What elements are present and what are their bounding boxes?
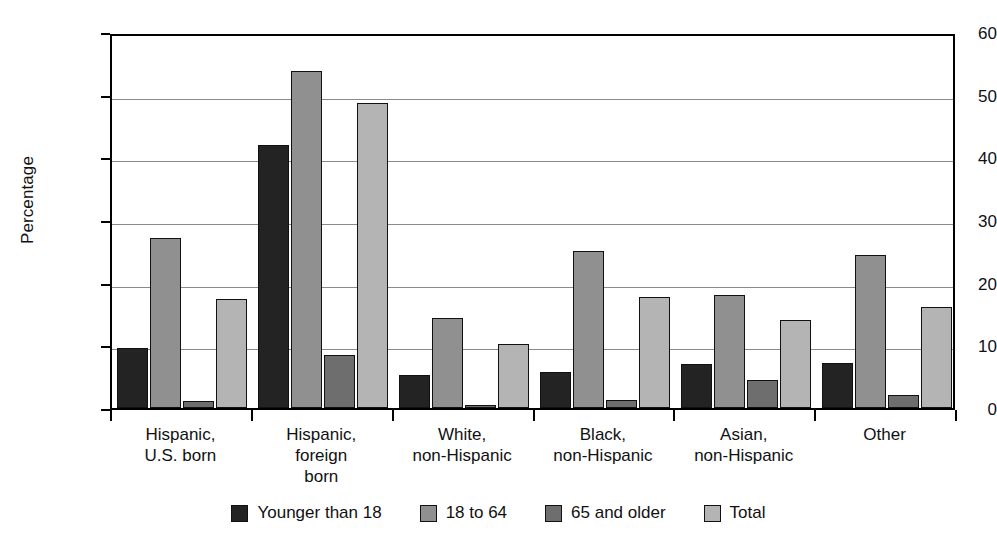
- legend-label: 65 and older: [571, 503, 666, 523]
- legend-swatch-icon: [420, 505, 437, 522]
- x-category-label: Hispanic, U.S. born: [110, 424, 251, 466]
- bar: [150, 238, 181, 408]
- x-tick-mark: [392, 410, 394, 421]
- bar: [714, 295, 745, 408]
- legend-item[interactable]: 18 to 64: [420, 503, 507, 523]
- bar: [573, 251, 604, 408]
- x-category-label: Hispanic, foreign born: [251, 424, 392, 487]
- x-tick-mark: [814, 410, 816, 421]
- bar: [822, 363, 853, 408]
- y-tick-label: 60: [951, 24, 997, 44]
- bar: [606, 400, 637, 408]
- bar: [117, 348, 148, 408]
- bar: [357, 103, 388, 408]
- bar: [498, 344, 529, 408]
- bar: [747, 380, 778, 408]
- y-tick-mark: [101, 96, 110, 98]
- x-tick-mark: [673, 410, 675, 421]
- y-tick-label: 50: [951, 87, 997, 107]
- legend-item[interactable]: Younger than 18: [231, 503, 381, 523]
- y-tick-mark: [101, 409, 110, 411]
- y-tick-label: 20: [951, 275, 997, 295]
- y-tick-mark: [101, 158, 110, 160]
- y-tick-label: 0: [951, 400, 997, 420]
- y-axis-title: Percentage: [18, 110, 38, 290]
- legend-swatch-icon: [545, 505, 562, 522]
- legend-label: 18 to 64: [446, 503, 507, 523]
- bar: [921, 307, 952, 408]
- legend-label: Younger than 18: [257, 503, 381, 523]
- bar: [258, 145, 289, 408]
- y-tick-label: 30: [951, 212, 997, 232]
- chart-legend: Younger than 1818 to 6465 and olderTotal: [0, 503, 997, 523]
- bar-chart: Percentage 0102030405060 Hispanic, U.S. …: [0, 0, 997, 558]
- legend-label: Total: [730, 503, 766, 523]
- gridline: [112, 161, 953, 162]
- x-category-label: Other: [814, 424, 955, 445]
- x-category-label: Black, non-Hispanic: [533, 424, 674, 466]
- y-tick-mark: [101, 284, 110, 286]
- y-tick-mark: [101, 33, 110, 35]
- legend-swatch-icon: [704, 505, 721, 522]
- x-tick-mark: [251, 410, 253, 421]
- bar: [432, 318, 463, 408]
- x-category-label: Asian, non-Hispanic: [673, 424, 814, 466]
- plot-area: [110, 34, 955, 410]
- y-tick-mark: [101, 221, 110, 223]
- gridline: [112, 224, 953, 225]
- bar: [681, 364, 712, 408]
- bar: [639, 297, 670, 408]
- legend-swatch-icon: [231, 505, 248, 522]
- gridline: [112, 99, 953, 100]
- y-tick-label: 40: [951, 149, 997, 169]
- x-tick-mark: [110, 410, 112, 421]
- bar: [465, 405, 496, 408]
- bar: [183, 401, 214, 408]
- bar: [888, 395, 919, 408]
- bar: [324, 355, 355, 408]
- legend-item[interactable]: 65 and older: [545, 503, 666, 523]
- y-tick-mark: [101, 346, 110, 348]
- bar: [216, 299, 247, 408]
- legend-item[interactable]: Total: [704, 503, 766, 523]
- bar: [291, 71, 322, 408]
- bar: [399, 375, 430, 408]
- x-tick-mark: [955, 410, 957, 421]
- bar: [540, 372, 571, 408]
- x-tick-mark: [533, 410, 535, 421]
- bar: [855, 255, 886, 408]
- x-category-label: White, non-Hispanic: [392, 424, 533, 466]
- plot-inner: [112, 36, 953, 408]
- y-tick-label: 10: [951, 337, 997, 357]
- gridline: [112, 287, 953, 288]
- bar: [780, 320, 811, 408]
